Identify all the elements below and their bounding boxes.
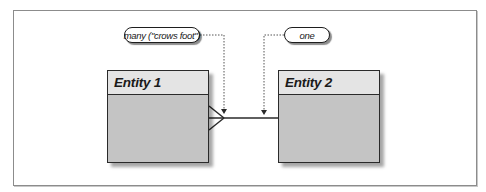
one-label-callout: one (284, 27, 330, 43)
entity-1-box: Entity 1 (107, 70, 209, 163)
entity-1-body (108, 95, 208, 162)
entity-2-header: Entity 2 (279, 71, 379, 95)
many-arrowhead-icon (221, 109, 227, 114)
one-arrowhead-icon (261, 110, 267, 115)
connector-layer (0, 0, 486, 192)
entity-2-body (279, 95, 379, 162)
one-label-text: one (300, 30, 315, 41)
many-label-text: many ("crows foot") (124, 30, 201, 41)
entity-2-title: Entity 2 (285, 75, 332, 90)
entity-1-header: Entity 1 (108, 71, 208, 95)
entity-1-title: Entity 1 (114, 75, 161, 90)
entity-2-box: Entity 2 (278, 70, 380, 163)
many-label-callout: many ("crows foot") (124, 27, 200, 43)
